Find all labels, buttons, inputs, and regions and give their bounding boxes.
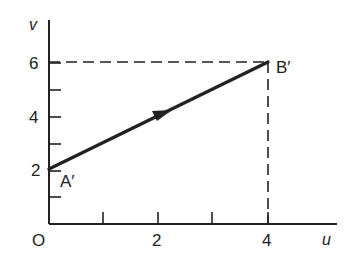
point-label-b: B′	[276, 58, 291, 77]
v-axis-label: v	[29, 16, 38, 33]
u-axis-label: u	[322, 231, 331, 248]
v-tick-label-2: 2	[31, 161, 40, 180]
point-label-a: A′	[60, 172, 75, 191]
origin-label: O	[32, 231, 45, 250]
uv-plane: v u O 6 4 2 2 4 A′ B′	[0, 0, 346, 254]
diagram-canvas: v u O 6 4 2 2 4 A′ B′	[0, 0, 346, 254]
u-tick-label-4: 4	[262, 231, 271, 250]
u-tick-label-2: 2	[152, 231, 161, 250]
arrow-icon	[152, 110, 172, 121]
u-ticks	[103, 212, 268, 224]
v-tick-label-6: 6	[29, 54, 38, 73]
v-tick-label-4: 4	[29, 108, 38, 127]
